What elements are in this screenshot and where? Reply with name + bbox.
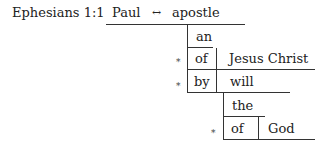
subject-word: Paul [112,6,140,20]
modifier-the: the [232,99,253,113]
prep-phrase-line [187,69,315,70]
prep-phrase-line [223,139,315,140]
preposition-divider [258,117,259,139]
marker-asterisk: * [176,57,181,67]
verse-reference: Ephesians 1:1 [12,6,105,20]
preposition-of: of [195,52,208,66]
baseline [106,24,245,25]
marker-asterisk: * [176,81,181,91]
preposition-by: by [194,75,210,89]
object-god: God [268,122,295,136]
modifier-an-line [187,47,213,48]
preposition-of: of [231,122,244,136]
object-jesus-christ: Jesus Christ [229,52,308,66]
bidirectional-arrow-icon: ↔ [152,6,161,20]
prep-phrase-line [187,92,290,93]
object-will: will [230,75,254,89]
modifier-stem-line [187,24,188,93]
preposition-divider [216,48,217,69]
predicate-word: apostle [172,6,220,20]
modifier-an: an [196,30,212,44]
marker-asterisk: * [211,128,216,138]
preposition-divider [216,70,217,92]
